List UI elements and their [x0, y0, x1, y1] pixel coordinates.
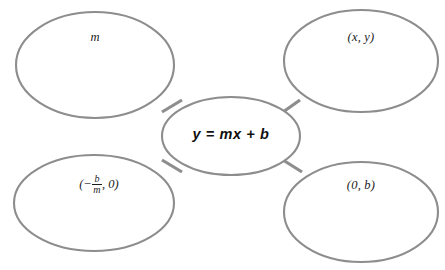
connector-center-to-bottom-right — [283, 160, 302, 172]
oval-top-left[interactable] — [16, 12, 174, 118]
oval-center[interactable] — [162, 97, 300, 175]
oval-bottom-left[interactable] — [14, 155, 174, 251]
oval-bottom-right[interactable] — [284, 162, 438, 262]
connector-center-to-top-right — [283, 100, 300, 112]
diagram-canvas: m (x, y) (−bm, 0) (0, b) y = mx + b — [0, 0, 445, 270]
oval-top-right[interactable] — [284, 10, 438, 112]
concept-map-graphic — [0, 0, 445, 270]
